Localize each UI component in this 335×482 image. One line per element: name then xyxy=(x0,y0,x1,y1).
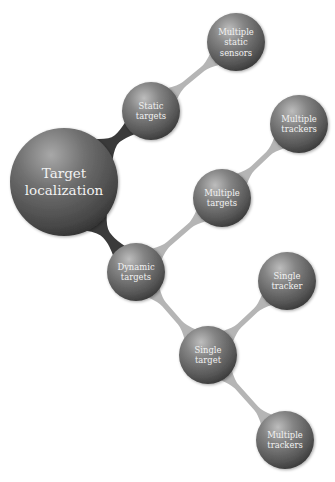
taxonomy-diagram: TargetlocalizationStatictargetsMultiples… xyxy=(0,0,335,482)
node-label: static xyxy=(224,37,248,47)
node-label: Dynamic xyxy=(117,262,154,272)
connector-single-target-to-multiple-trackers-bottom xyxy=(220,369,274,426)
node-single-tracker: Singletracker xyxy=(258,252,316,310)
node-label: Multiple xyxy=(218,27,254,37)
connector-dynamic-targets-to-multiple-targets xyxy=(150,209,207,261)
node-label: tracker xyxy=(271,281,302,291)
node-dynamic-targets: Dynamictargets xyxy=(107,243,165,301)
node-multiple-static-sensors: Multiplestaticsensors xyxy=(207,13,265,71)
node-label: Multiple xyxy=(281,114,317,124)
node-label: targets xyxy=(121,272,151,282)
node-root: Targetlocalization xyxy=(10,128,118,236)
node-label: Multiple xyxy=(204,188,240,198)
node-label: localization xyxy=(25,182,104,198)
connector-dynamic-targets-to-single-target xyxy=(147,286,197,340)
node-label: sensors xyxy=(220,48,252,58)
node-static-targets: Statictargets xyxy=(122,82,180,140)
node-label: target xyxy=(195,355,222,365)
node-multiple-targets: Multipletargets xyxy=(193,169,251,227)
node-label: Multiple xyxy=(267,430,303,440)
connector-static-targets-to-multiple-static-sensors xyxy=(166,52,221,101)
node-label: Target xyxy=(42,165,87,181)
node-label: targets xyxy=(136,111,166,121)
node-label: trackers xyxy=(267,440,302,450)
node-multiple-trackers-top: Multipletrackers xyxy=(270,95,328,153)
node-single-target: Singletarget xyxy=(179,326,237,384)
node-label: targets xyxy=(207,198,237,208)
node-label: Static xyxy=(139,101,164,111)
node-label: Single xyxy=(195,345,222,355)
node-label: Single xyxy=(274,271,301,281)
node-label: trackers xyxy=(281,124,316,134)
node-multiple-trackers-bottom: Multipletrackers xyxy=(256,411,314,469)
